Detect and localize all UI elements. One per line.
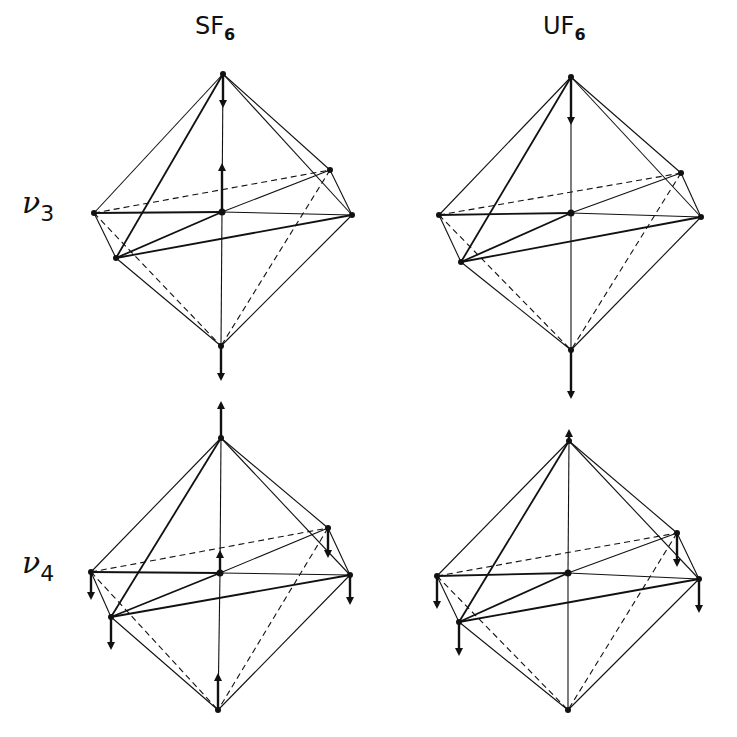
edge — [94, 212, 222, 213]
hidden-edge — [221, 170, 330, 346]
edge — [459, 441, 569, 622]
edge — [91, 572, 111, 617]
atom-left — [436, 212, 442, 218]
edge — [569, 441, 677, 533]
atom-backright — [674, 530, 680, 536]
atom-right — [698, 214, 704, 220]
edge — [221, 212, 222, 346]
edge — [568, 533, 677, 573]
hidden-edge — [439, 173, 681, 215]
edge — [116, 215, 352, 258]
atom-center — [565, 570, 572, 577]
edge — [459, 622, 568, 710]
atom-frontleft — [113, 255, 119, 261]
edge — [571, 173, 681, 213]
atom-bottom — [565, 707, 571, 713]
atom-frontleft — [456, 619, 462, 625]
atom-left — [88, 569, 94, 575]
edge — [571, 77, 681, 173]
edge — [677, 533, 699, 579]
atom-top — [218, 435, 224, 441]
edge — [571, 213, 701, 217]
edge — [459, 573, 568, 622]
atom-left — [91, 210, 97, 216]
edge — [220, 438, 221, 573]
atom-frontleft — [458, 259, 464, 265]
octahedron-sf6-nu3 — [91, 71, 355, 378]
vibrational-modes-figure: SF6 UF6 ν3 ν4 — [0, 0, 737, 737]
atom-bottom — [215, 707, 221, 713]
edge — [571, 77, 701, 217]
edge — [568, 441, 569, 573]
octahedron-sf6-nu4 — [88, 404, 353, 713]
edge — [461, 77, 571, 262]
edge — [439, 213, 571, 215]
edge — [222, 170, 330, 212]
hidden-edge — [218, 528, 328, 710]
edge — [437, 573, 568, 576]
edge — [116, 212, 222, 258]
atom-top — [220, 71, 226, 77]
edge — [328, 528, 350, 575]
atom-left — [434, 573, 440, 579]
hidden-edge — [94, 170, 330, 213]
edge — [220, 573, 350, 575]
edge — [116, 258, 221, 346]
edge — [94, 74, 223, 213]
atom-top — [566, 438, 572, 444]
edge — [222, 212, 352, 215]
hidden-edge — [437, 576, 568, 710]
edge — [439, 77, 571, 215]
atom-center — [219, 209, 226, 216]
edge — [568, 573, 699, 579]
edge — [91, 572, 220, 573]
edge — [220, 528, 328, 573]
edge — [94, 213, 116, 258]
edge — [221, 438, 328, 528]
edge — [111, 438, 221, 617]
edge — [461, 217, 701, 262]
atom-right — [349, 212, 355, 218]
edge — [223, 74, 330, 170]
edge — [330, 170, 352, 215]
hidden-edge — [94, 213, 221, 346]
atom-bottom — [568, 347, 574, 353]
edge — [461, 262, 571, 350]
octahedra-drawing — [0, 0, 737, 737]
hidden-edge — [439, 215, 571, 350]
atom-center — [568, 210, 575, 217]
octahedron-uf6-nu4 — [434, 432, 702, 713]
atom-right — [696, 576, 702, 582]
atom-backright — [327, 167, 333, 173]
edge — [116, 74, 223, 258]
hidden-edge — [568, 533, 677, 710]
octahedron-uf6-nu3 — [436, 74, 704, 396]
edge — [111, 617, 218, 710]
atom-bottom — [218, 343, 224, 349]
hidden-edge — [571, 173, 681, 350]
edge — [681, 173, 701, 217]
atom-backright — [325, 525, 331, 531]
edge — [111, 575, 350, 617]
atom-center — [217, 570, 224, 577]
edge — [437, 576, 459, 622]
edge — [569, 441, 699, 579]
edge — [439, 215, 461, 262]
edge — [461, 213, 571, 262]
edge — [111, 573, 220, 617]
atom-backright — [678, 170, 684, 176]
edge — [223, 74, 352, 215]
edge — [221, 438, 350, 575]
atom-frontleft — [108, 614, 114, 620]
atom-top — [568, 74, 574, 80]
atom-right — [347, 572, 353, 578]
